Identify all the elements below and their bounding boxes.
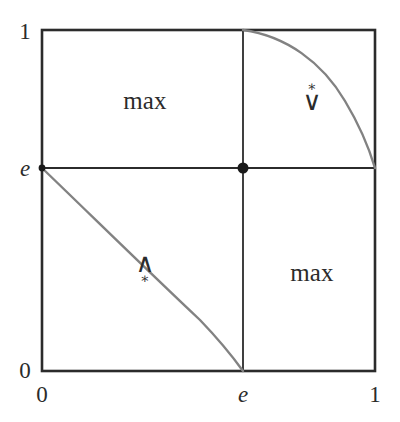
y-axis-tick-bottom: 0 [19, 359, 31, 382]
y-axis-tick-middle: e [20, 157, 30, 180]
figure-root: 1 e 0 0 e 1 max ∗ ∨ ∧ ∗ max [0, 0, 400, 422]
x-axis-tick-right: 1 [369, 383, 381, 406]
region-label-upper-left: max [123, 88, 167, 113]
x-axis-tick-middle: e [238, 383, 248, 406]
region-label-upper-right: ∗ ∨ [302, 83, 321, 113]
y-axis-tick-top: 1 [19, 20, 31, 43]
plot-frame [42, 30, 375, 371]
x-axis-tick-left: 0 [36, 383, 48, 406]
left-edge-point-marker [39, 165, 46, 172]
plot-canvas [0, 0, 400, 422]
vee-operator-icon: ∨ [302, 91, 321, 113]
region-label-lower-right: max [290, 260, 334, 285]
region-label-lower-left: ∧ ∗ [135, 253, 154, 283]
center-point-marker [238, 163, 249, 174]
